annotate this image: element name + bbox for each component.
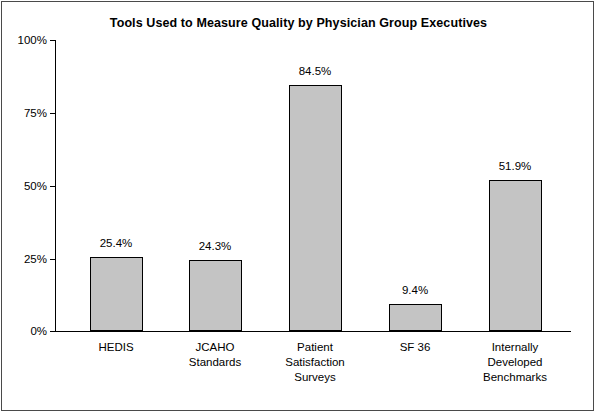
bar-jcaho-standards [189, 260, 242, 331]
bar-value-jcaho-standards: 24.3% [199, 240, 232, 252]
x-axis-line [55, 331, 571, 332]
bar-hedis [90, 257, 143, 331]
bar-patient-satisfaction-surveys [289, 85, 342, 331]
y-tick-label: 50% [24, 180, 47, 192]
y-tick-mark [50, 186, 55, 187]
category-label-line: Developed [483, 355, 547, 370]
category-label-sf-36: SF 36 [400, 340, 431, 355]
chart-title: Tools Used to Measure Quality by Physici… [0, 16, 597, 30]
bar-sf-36 [389, 304, 442, 331]
y-tick-label: 100% [18, 34, 47, 46]
bar-value-internally-developed-benchmarks: 51.9% [499, 160, 532, 172]
category-label-line: HEDIS [98, 340, 133, 355]
y-tick-mark [50, 40, 55, 41]
chart-page: Tools Used to Measure Quality by Physici… [0, 0, 597, 415]
plot-area: 100% 75% 50% 25% 0% 25.4% HEDIS 24.3% JC… [55, 40, 571, 332]
y-tick-label: 0% [30, 325, 47, 337]
y-tick-mark [50, 259, 55, 260]
category-label-line: Patient [285, 340, 344, 355]
category-label-patient-satisfaction-surveys: Patient Satisfaction Surveys [285, 340, 344, 385]
category-label-line: Benchmarks [483, 370, 547, 385]
bar-value-sf-36: 9.4% [402, 284, 428, 296]
category-label-line: SF 36 [400, 340, 431, 355]
bar-internally-developed-benchmarks [489, 180, 542, 331]
y-tick-label: 25% [24, 253, 47, 265]
category-label-line: Surveys [285, 370, 344, 385]
bar-value-patient-satisfaction-surveys: 84.5% [299, 65, 332, 77]
category-label-hedis: HEDIS [98, 340, 133, 355]
category-label-line: JCAHO [189, 340, 241, 355]
category-label-internally-developed-benchmarks: Internally Developed Benchmarks [483, 340, 547, 385]
category-label-line: Standards [189, 355, 241, 370]
y-tick-label: 75% [24, 107, 47, 119]
bar-value-hedis: 25.4% [100, 237, 133, 249]
y-tick-mark [50, 331, 55, 332]
category-label-line: Satisfaction [285, 355, 344, 370]
category-label-line: Internally [483, 340, 547, 355]
category-label-jcaho-standards: JCAHO Standards [189, 340, 241, 370]
y-axis-line [55, 40, 56, 332]
y-tick-mark [50, 113, 55, 114]
